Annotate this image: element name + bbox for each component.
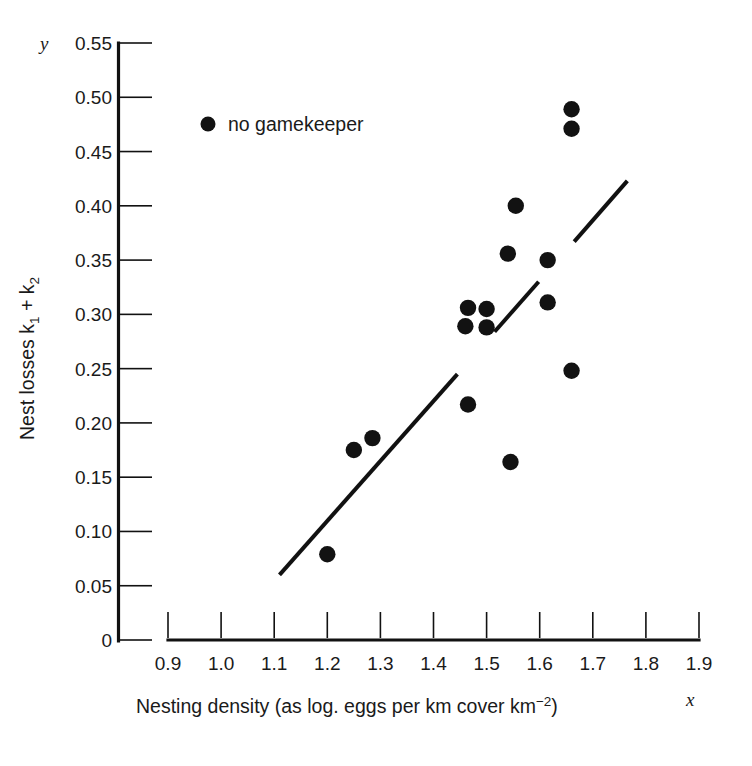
legend-marker-icon	[201, 117, 216, 132]
y-axis-symbol: y	[38, 33, 49, 54]
regression-line-segment	[280, 374, 458, 575]
data-point	[457, 318, 473, 334]
x-tick-label: 1.4	[420, 653, 447, 674]
x-axis-title-tail: )	[551, 695, 558, 717]
y-tick-label: 0.50	[75, 87, 112, 108]
y-axis-title-mid: + k	[16, 284, 38, 316]
x-tick-label: 1.0	[208, 653, 234, 674]
y-axis-title: Nest losses k1 + k2	[16, 277, 42, 440]
y-axis-title-sub2: 2	[27, 277, 42, 285]
y-tick-label: 0.15	[75, 467, 112, 488]
x-tick-label: 1.3	[367, 653, 393, 674]
y-axis-title-sub1: 1	[27, 317, 42, 325]
data-point	[346, 442, 362, 458]
data-point	[502, 454, 518, 470]
y-tick-label: 0.20	[75, 413, 112, 434]
data-point	[563, 363, 579, 379]
x-tick-label: 1.5	[473, 653, 499, 674]
y-tick-label: 0.10	[75, 521, 112, 542]
x-tick-label: 1.2	[314, 653, 340, 674]
x-axis-ticks	[168, 612, 699, 638]
x-axis-symbol: x	[685, 689, 695, 710]
y-axis-title-prefix: Nest losses k	[16, 324, 38, 440]
scatter-plot-figure: 00.050.100.150.200.250.300.350.400.450.5…	[0, 0, 752, 766]
x-tick-label: 1.6	[526, 653, 552, 674]
y-axis-ticks	[120, 43, 152, 640]
y-tick-label: 0	[101, 630, 112, 651]
data-point	[460, 300, 476, 316]
x-axis-title-sup: −2	[536, 694, 551, 709]
x-axis-title: Nesting density (as log. eggs per km cov…	[136, 694, 558, 717]
y-tick-label: 0.25	[75, 359, 112, 380]
data-point	[478, 301, 494, 317]
data-point	[539, 252, 555, 268]
data-point	[508, 198, 524, 214]
y-tick-label: 0.30	[75, 304, 112, 325]
x-tick-label: 1.1	[261, 653, 287, 674]
data-point	[364, 430, 380, 446]
regression-line-segment	[495, 282, 539, 332]
x-axis-tick-labels: 0.91.01.11.21.31.41.51.61.71.81.9	[155, 653, 712, 674]
x-tick-label: 0.9	[155, 653, 181, 674]
data-point	[319, 546, 335, 562]
y-tick-label: 0.55	[75, 33, 112, 54]
data-point	[460, 396, 476, 412]
data-points	[319, 101, 580, 562]
y-tick-label: 0.35	[75, 250, 112, 271]
x-tick-label: 1.9	[686, 653, 712, 674]
data-point	[500, 245, 516, 261]
data-point	[563, 101, 579, 117]
y-tick-label: 0.05	[75, 576, 112, 597]
x-tick-label: 1.8	[633, 653, 659, 674]
data-point	[539, 294, 555, 310]
regression-line-segment	[574, 181, 627, 242]
data-point	[563, 121, 579, 137]
y-axis-tick-labels: 00.050.100.150.200.250.300.350.400.450.5…	[75, 33, 112, 651]
plot-canvas: 00.050.100.150.200.250.300.350.400.450.5…	[0, 0, 752, 766]
legend-label: no gamekeeper	[228, 113, 364, 135]
y-tick-label: 0.45	[75, 142, 112, 163]
x-tick-label: 1.7	[580, 653, 606, 674]
y-tick-label: 0.40	[75, 196, 112, 217]
data-point	[478, 319, 494, 335]
x-axis-title-main: Nesting density (as log. eggs per km cov…	[136, 695, 536, 717]
